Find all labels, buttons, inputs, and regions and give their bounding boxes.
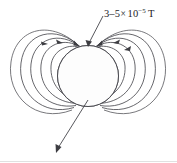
label-leader-line — [89, 16, 103, 43]
field-unit: T — [146, 8, 155, 19]
power-base: 10 — [127, 8, 139, 19]
magnetic-field-strength-label: 3–5×10−5T — [104, 8, 154, 20]
field-arrow-left-inner — [74, 41, 80, 47]
dipole-axis-arrowhead — [56, 144, 62, 153]
power-exponent: −5 — [138, 7, 146, 15]
field-range-value: 3–5 — [104, 8, 120, 19]
figure-canvas — [0, 0, 177, 163]
earth-magnetic-field-figure: 3–5×10−5T — [0, 0, 177, 163]
dipole-axis-line — [58, 100, 88, 148]
multiplication-sign: × — [120, 9, 126, 19]
field-arrow-left-outer — [41, 42, 48, 46]
field-arrow-right-inner — [97, 41, 103, 47]
globe-outline-top — [58, 46, 119, 107]
earth-globe-group — [58, 46, 119, 107]
